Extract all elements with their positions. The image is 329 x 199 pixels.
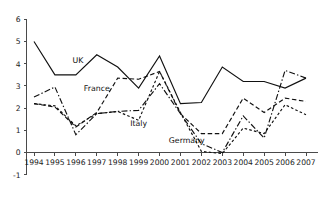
x-axis-ticks: 1994199519961997199819992000200120022003… [24,153,315,167]
y-tick-label: 3 [16,82,21,91]
y-tick-label: 2 [16,104,21,113]
x-tick-label: 2004 [234,158,253,167]
line-chart: 6543210-1 199419951996199719981999200020… [0,0,329,199]
y-tick-label: 5 [16,37,21,46]
series-label-uk: UK [73,56,85,65]
y-tick-label: 6 [16,15,21,24]
x-tick-label: 1995 [45,158,64,167]
series-label-italy: Italy [130,119,147,128]
series-label-germany: Germany [169,136,205,145]
y-tick-label: -1 [13,171,21,180]
series-label-france: France [84,84,110,93]
y-tick-label: 0 [16,148,21,157]
x-tick-label: 2003 [213,158,232,167]
x-tick-label: 2000 [150,158,169,167]
x-tick-label: 2006 [275,158,294,167]
series-annotations: UKFranceItalyGermany [73,56,206,146]
y-tick-label: 4 [16,60,21,69]
x-tick-label: 1996 [66,158,85,167]
chart-canvas: 6543210-1 199419951996199719981999200020… [0,0,329,199]
x-tick-label: 1997 [87,158,106,167]
series-line-uk [34,42,306,104]
x-axis: 1994199519961997199819992000200120022003… [24,153,318,167]
y-axis: 6543210-1 [13,15,27,179]
x-tick-label: 2007 [296,158,315,167]
x-tick-label: 2005 [254,158,273,167]
x-tick-label: 1999 [129,158,148,167]
y-axis-ticks: 6543210-1 [13,15,27,179]
y-tick-label: 1 [16,126,21,135]
x-tick-label: 2001 [171,158,190,167]
x-tick-label: 2002 [192,158,211,167]
x-tick-label: 1998 [108,158,127,167]
x-tick-label: 1994 [24,158,43,167]
